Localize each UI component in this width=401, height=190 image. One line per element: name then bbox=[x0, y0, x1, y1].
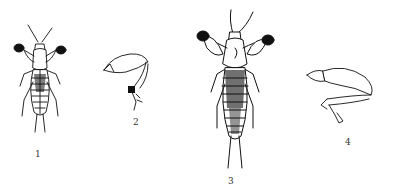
figure-2-label: 2 bbox=[133, 118, 139, 127]
figure-4-label: 4 bbox=[345, 138, 351, 147]
hindleg-icon bbox=[305, 65, 385, 125]
insect-icon bbox=[10, 20, 70, 140]
illustration-plate: 1 2 bbox=[0, 0, 401, 190]
figure-2-foreleg bbox=[100, 50, 160, 115]
figure-3-insect-large bbox=[195, 8, 275, 173]
insect-icon bbox=[195, 8, 275, 173]
figure-1-label: 1 bbox=[35, 150, 41, 159]
figure-4-hindleg bbox=[305, 65, 385, 125]
figure-3-label: 3 bbox=[228, 177, 234, 186]
figure-1-insect-small bbox=[10, 20, 70, 140]
foreleg-icon bbox=[100, 50, 160, 115]
